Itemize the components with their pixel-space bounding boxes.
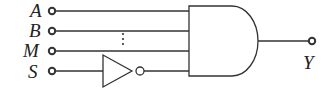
input-terminal-a [49,8,55,14]
ellipsis-dots [122,33,124,45]
input-label-m: M [22,40,40,61]
input-label-a: A [28,0,42,21]
output-label-y: Y [303,52,316,73]
input-terminal-b [49,28,55,34]
input-label-b: B [29,20,41,41]
inverter-bubble [136,67,144,75]
input-label-s: S [28,61,38,82]
and-gate [189,6,258,76]
input-terminal-m [49,48,55,54]
input-terminal-s [49,68,55,74]
logic-circuit-diagram: A B M S Y [0,0,332,93]
not-gate [103,55,132,87]
output-terminal-y [309,38,315,44]
